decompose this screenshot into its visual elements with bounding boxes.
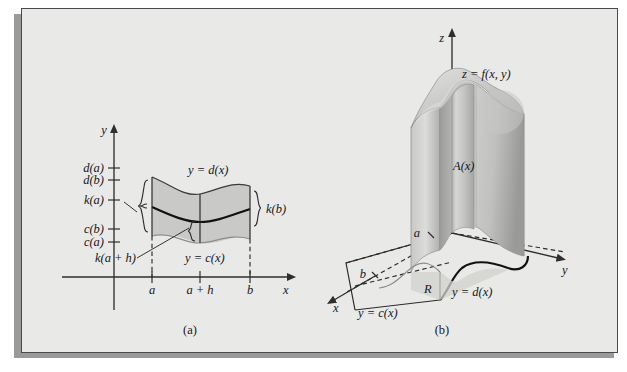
panel-a-x-axis-label: x: [282, 283, 289, 297]
y-tick-label-k-a-plus-h: k(a + h): [95, 251, 136, 265]
surface-right-lobe-shade: [476, 90, 524, 134]
panel-b-z-axis-label: z: [438, 31, 444, 45]
region-between-curves: [152, 177, 250, 243]
panel-b-caption: (b): [435, 323, 450, 337]
boundary-lower-label: y = c(x): [356, 306, 398, 320]
panel-b-x-axis-arrow: [334, 276, 375, 300]
curve-upper-label: y = d(x): [186, 163, 228, 177]
x-tick-label-a-plus-h: a + h: [186, 283, 213, 297]
brace-k-b: [254, 191, 261, 226]
panel-b-x-axis-label: x: [332, 301, 339, 315]
figure-drawing: y x d(a) d(b) k(a) c(b) c(a) k(a + h) a …: [0, 0, 627, 372]
curve-lower-label: y = c(x): [183, 251, 225, 265]
brace-k-a: [140, 204, 147, 208]
y-tick-label-d-b: d(b): [83, 173, 104, 187]
surface-equation-label: z = f(x, y): [461, 67, 511, 81]
y-tick-label-k-a: k(a): [84, 193, 104, 207]
panel-a: y x d(a) d(b) k(a) c(b) c(a) k(a + h) a …: [62, 123, 289, 337]
brace-label-k-b: k(b): [266, 202, 286, 216]
x-tick-label-a: a: [149, 283, 155, 297]
region-label-R: R: [423, 282, 432, 296]
brace-k-a-body: [138, 180, 148, 232]
panel-b-y-axis-label: y: [560, 263, 568, 277]
leader-k-a: [124, 202, 137, 212]
cross-section-label: A(x): [452, 159, 475, 173]
panel-a-caption: (a): [183, 323, 197, 337]
panel-b-label-b: b: [360, 267, 366, 281]
panel-a-y-axis-label: y: [99, 123, 107, 137]
x-tick-label-b: b: [247, 283, 253, 297]
panel-b-label-a: a: [414, 226, 420, 240]
solid-left-face: [411, 107, 440, 272]
boundary-upper-label: y = d(x): [450, 285, 492, 299]
panel-b: z y x z = f(x, y) A(x) R y = c(x) y = d(…: [332, 31, 568, 337]
y-tick-label-c-b: c(b): [84, 222, 104, 236]
y-tick-label-c-a: c(a): [84, 235, 104, 249]
figure-container: y x d(a) d(b) k(a) c(b) c(a) k(a + h) a …: [0, 0, 627, 372]
